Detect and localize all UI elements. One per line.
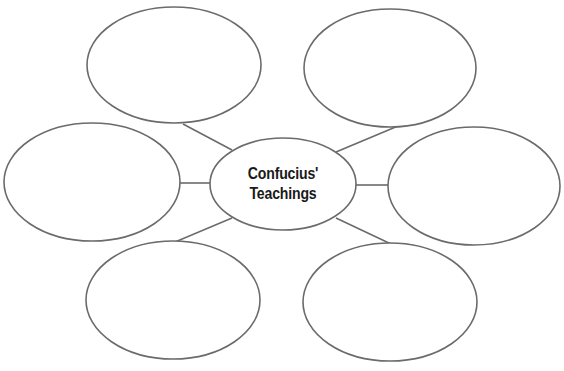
node-top-left-text (100, 20, 248, 110)
node-bottom-left-text (99, 254, 247, 346)
node-right-text (400, 140, 548, 232)
node-top-right-text (316, 22, 464, 114)
node-bottom-right-text (316, 256, 464, 348)
web-organizer-diagram: Confucius' Teachings (0, 0, 564, 371)
center-label-line1: Confucius' (248, 164, 318, 184)
center-label-line2: Teachings (249, 184, 316, 204)
node-left-text (18, 136, 166, 228)
center-node-label: Confucius' Teachings (219, 137, 347, 230)
